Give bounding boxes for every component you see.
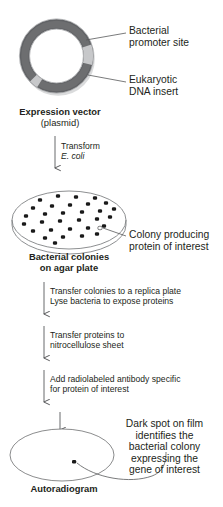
callout-colony-line2: protein of interest bbox=[129, 241, 209, 253]
step-transform-line2: E. coli bbox=[61, 151, 100, 161]
label-eukaryotic-insert: Eukaryotic DNA insert bbox=[129, 74, 178, 97]
callout-dark-spot-line-1: Dark spot on film bbox=[108, 418, 221, 430]
colony-dot bbox=[108, 215, 112, 218]
autoradiogram-film bbox=[10, 429, 114, 481]
colony-dot bbox=[104, 201, 108, 204]
caption-colonies-line2: on agar plate bbox=[0, 263, 138, 274]
label-bacterial-promoter: Bacterial promoter site bbox=[129, 25, 189, 48]
colony-dot bbox=[74, 195, 78, 198]
colony-dot bbox=[50, 204, 54, 207]
figure-canvas: Bacterial promoter site Eukaryotic DNA i… bbox=[0, 0, 223, 507]
colony-dot bbox=[61, 211, 65, 214]
callout-dark-spot-line-2: identifies the bbox=[108, 430, 221, 442]
label-promoter-line2: promoter site bbox=[129, 37, 189, 49]
colony-dot bbox=[43, 212, 47, 215]
colony-dot bbox=[40, 220, 44, 223]
colony-dot bbox=[49, 228, 53, 231]
colony-dot bbox=[38, 198, 42, 201]
colony-dot bbox=[58, 219, 62, 222]
step-blot: Transfer proteins to nitrocellulose shee… bbox=[50, 330, 124, 351]
step-blot-line1: Transfer proteins to bbox=[50, 330, 124, 340]
callout-colony-line1: Colony producing bbox=[129, 229, 209, 241]
caption-colonies-line1: Bacterial colonies bbox=[0, 252, 138, 263]
label-promoter-line1: Bacterial bbox=[129, 25, 189, 37]
colony-dot bbox=[98, 209, 102, 212]
autoradiogram-dark-spot bbox=[72, 460, 76, 463]
step-replica-line1: Transfer colonies to a replica plate bbox=[50, 286, 181, 296]
colony-dot bbox=[86, 202, 90, 205]
step-antibody: Add radiolabeled antibody specific for p… bbox=[50, 374, 180, 395]
colony-dot bbox=[56, 194, 60, 197]
callout-dark-spot-line-3: bacterial colony bbox=[108, 441, 221, 453]
leader-line-promoter bbox=[86, 33, 126, 40]
leader-line-insert bbox=[88, 75, 126, 82]
colony-dot bbox=[102, 224, 106, 227]
callout-dark-spot-line-5: gene of interest bbox=[108, 464, 221, 476]
step-replica-lyse: Transfer colonies to a replica plate Lys… bbox=[50, 286, 181, 307]
colony-dot bbox=[22, 222, 26, 225]
colony-dot bbox=[77, 218, 81, 221]
step-blot-line2: nitrocellulose sheet bbox=[50, 340, 124, 350]
callout-dark-spot-line-4: expressing the bbox=[108, 453, 221, 465]
plasmid-ring bbox=[13, 13, 99, 99]
caption-plasmid-sub: (plasmid) bbox=[0, 118, 120, 129]
caption-autoradiogram: Autoradiogram bbox=[0, 484, 128, 495]
step-antibody-line2: for protein of interest bbox=[50, 384, 180, 394]
label-insert-line1: Eukaryotic bbox=[129, 74, 178, 86]
colony-dot bbox=[95, 232, 99, 235]
step-transform: Transform E. coli bbox=[61, 141, 100, 162]
label-insert-line2: DNA insert bbox=[129, 86, 178, 98]
callout-dark-spot: Dark spot on filmidentifies thebacterial… bbox=[108, 418, 221, 476]
caption-expression-vector: Expression vector (plasmid) bbox=[0, 107, 120, 128]
colony-dot bbox=[53, 241, 57, 244]
step-replica-line2: Lyse bacteria to expose proteins bbox=[50, 296, 181, 306]
colony-dot bbox=[43, 236, 47, 239]
caption-expression-vector-bold: Expression vector bbox=[19, 106, 100, 117]
caption-bacterial-colonies: Bacterial colonies on agar plate bbox=[0, 252, 138, 273]
colony-dot bbox=[31, 206, 35, 209]
colony-dot bbox=[68, 203, 72, 206]
callout-colony-producing: Colony producing protein of interest bbox=[129, 229, 209, 252]
colony-dot bbox=[95, 217, 99, 220]
step-transform-line1: Transform bbox=[61, 141, 100, 151]
agar-plate bbox=[12, 191, 126, 254]
colony-dot bbox=[68, 227, 72, 230]
colony-dot bbox=[112, 207, 116, 210]
colony-dot bbox=[93, 196, 97, 199]
colony-dot bbox=[80, 234, 84, 237]
step-antibody-line1: Add radiolabeled antibody specific bbox=[50, 374, 180, 384]
colony-dot bbox=[31, 229, 35, 232]
colony-dot bbox=[80, 210, 84, 213]
colony-dot bbox=[86, 226, 90, 229]
colony-dot-highlighted bbox=[98, 226, 102, 229]
colony-dot bbox=[61, 235, 65, 238]
colony-dot bbox=[24, 214, 28, 217]
